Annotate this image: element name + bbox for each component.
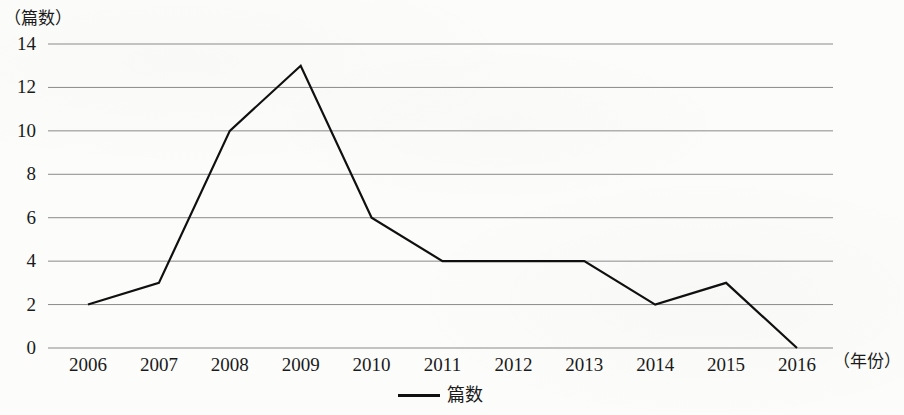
legend-line-swatch bbox=[398, 394, 440, 397]
y-axis-tick-label: 8 bbox=[2, 164, 36, 183]
y-axis-tick-label: 4 bbox=[2, 251, 36, 270]
chart-legend: 篇数 bbox=[398, 386, 483, 404]
x-axis-tick-label: 2006 bbox=[52, 355, 124, 374]
x-axis-tick-label: 2013 bbox=[548, 355, 620, 374]
y-axis-tick-label: 0 bbox=[2, 338, 36, 357]
y-axis-tick-label: 14 bbox=[2, 34, 36, 53]
x-axis-tick-label: 2016 bbox=[761, 355, 833, 374]
x-axis-tick-label: 2008 bbox=[194, 355, 266, 374]
gridline-group bbox=[48, 44, 833, 348]
line-chart-figure: （篇数） （年份） 02468101214 200620072008200920… bbox=[0, 0, 904, 415]
y-axis-tick-label: 12 bbox=[2, 77, 36, 96]
y-axis-tick-label: 10 bbox=[2, 121, 36, 140]
x-axis-tick-label: 2009 bbox=[265, 355, 337, 374]
plot-area bbox=[0, 0, 904, 415]
legend-entry-label: 篇数 bbox=[447, 386, 483, 404]
x-axis-tick-label: 2012 bbox=[477, 355, 549, 374]
x-axis-tick-label: 2015 bbox=[690, 355, 762, 374]
x-axis-tick-label: 2014 bbox=[619, 355, 691, 374]
y-axis-tick-label: 6 bbox=[2, 208, 36, 227]
data-series-line bbox=[88, 66, 797, 348]
x-axis-tick-label: 2011 bbox=[407, 355, 479, 374]
x-axis-tick-label: 2007 bbox=[123, 355, 195, 374]
y-axis-tick-label: 2 bbox=[2, 295, 36, 314]
data-series-group bbox=[88, 66, 797, 348]
x-axis-tick-label: 2010 bbox=[336, 355, 408, 374]
